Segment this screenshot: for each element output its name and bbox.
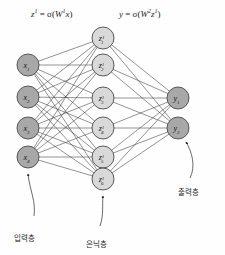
node-input-3: x3	[17, 117, 39, 139]
node-label-hidden-4: z14	[98, 124, 105, 135]
node-hidden-4: z14	[92, 117, 114, 139]
output-annotation-label: 출력층	[178, 186, 199, 197]
input-annotation-label: 입력층	[14, 232, 35, 243]
edge-hidden-2-to-output-1	[113, 69, 168, 93]
node-input-1: x1	[17, 54, 39, 76]
formula-output-layer: y = σ(W2z1)	[119, 8, 160, 19]
node-output-2: y2	[167, 117, 189, 139]
node-label-hidden-3: z13	[98, 94, 105, 105]
edge-input-1-to-hidden-1	[38, 42, 92, 62]
edge-hidden-1-to-output-2	[110, 46, 171, 119]
hidden-annotation-label: 은닉층	[86, 238, 107, 249]
output-annotation-arrow	[186, 142, 193, 178]
node-hidden-2: z12	[92, 54, 114, 76]
network-graphic: x1x2x3x4z11z12z13z14z15z16y1y2	[0, 0, 225, 255]
edge-input-3-to-hidden-1	[35, 46, 96, 119]
edge-hidden-2-to-output-2	[111, 72, 169, 121]
node-label-hidden-1: z11	[98, 34, 104, 45]
node-label-hidden-5: z15	[98, 153, 105, 164]
node-input-4: x4	[17, 146, 39, 168]
node-input-2: x2	[17, 86, 39, 108]
edge-hidden-1-to-output-1	[112, 45, 170, 91]
node-label-hidden-6: z16	[98, 175, 105, 186]
edge-hidden-6-to-output-2	[112, 134, 169, 173]
edge-hidden-6-to-output-1	[110, 106, 170, 171]
edge-input-4-to-hidden-6	[39, 160, 93, 176]
input-annotation-arrow	[28, 174, 34, 216]
edge-input-2-to-hidden-6	[35, 105, 95, 171]
node-output-1: y1	[167, 87, 189, 109]
edge-input-3-to-hidden-6	[37, 134, 94, 173]
node-hidden-5: z15	[92, 146, 114, 168]
formula-hidden-layer: z1 = σ(W1x)	[31, 8, 72, 19]
edge-input-4-to-hidden-1	[34, 47, 97, 147]
node-hidden-6: z16	[92, 168, 114, 190]
node-hidden-1: z11	[92, 27, 114, 49]
node-hidden-3: z13	[92, 87, 114, 109]
edge-hidden-5-to-output-1	[112, 105, 170, 150]
neural-network-diagram: x1x2x3x4z11z12z13z14z15z16y1y2 z1 = σ(W1…	[0, 0, 225, 255]
hidden-annotation-arrow	[100, 196, 103, 226]
node-label-hidden-2: z12	[98, 61, 105, 72]
